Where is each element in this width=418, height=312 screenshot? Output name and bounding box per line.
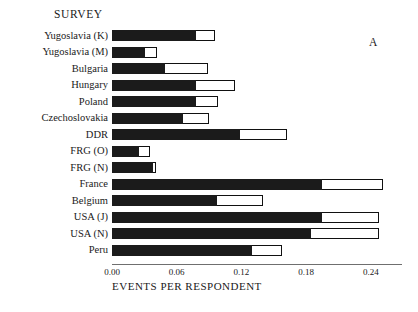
x-axis-tick-label: 0.00 [104, 267, 120, 277]
bar-row [112, 195, 263, 206]
bar-solid-segment [112, 146, 139, 157]
bar-row [112, 146, 150, 157]
bar-row [112, 63, 208, 74]
x-axis-tick-label: 0.18 [298, 267, 314, 277]
bar-solid-segment [112, 47, 145, 58]
survey-bar-chart: SURVEY A Yugoslavia (K)Yugoslavia (M)Bul… [0, 0, 418, 312]
bar-solid-segment [112, 80, 196, 91]
bar-row [112, 179, 383, 190]
bar-solid-segment [112, 113, 183, 124]
bar-solid-segment [112, 212, 322, 223]
bar-solid-segment [112, 30, 196, 41]
bar-solid-segment [112, 96, 196, 107]
bar-solid-segment [112, 63, 165, 74]
x-axis-title: EVENTS PER RESPONDENT [112, 280, 262, 292]
bar-row [112, 212, 379, 223]
bar-row [112, 96, 218, 107]
bar-solid-segment [112, 228, 311, 239]
bar-row [112, 228, 379, 239]
bar-row [112, 30, 215, 41]
bar-solid-segment [112, 129, 240, 140]
bar-row [112, 113, 209, 124]
x-axis-tick-label: 0.06 [169, 267, 185, 277]
bar-row [112, 129, 287, 140]
x-axis-line [112, 264, 402, 265]
bar-solid-segment [112, 162, 153, 173]
plot-area [0, 0, 418, 312]
x-axis-tick-label: 0.12 [234, 267, 250, 277]
bar-row [112, 245, 282, 256]
x-axis-tick-label: 0.24 [363, 267, 379, 277]
bar-solid-segment [112, 179, 322, 190]
bar-row [112, 162, 156, 173]
bar-row [112, 80, 235, 91]
bar-row [112, 47, 157, 58]
bar-solid-segment [112, 245, 252, 256]
bar-solid-segment [112, 195, 217, 206]
